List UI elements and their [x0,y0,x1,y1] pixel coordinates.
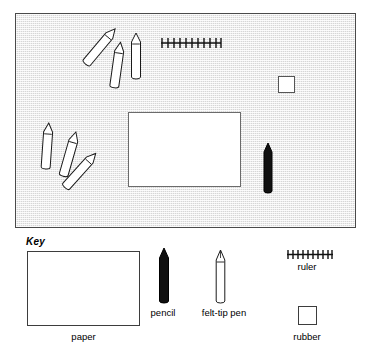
scene-rubber-square [278,76,295,93]
scene-pencil-black [261,142,275,198]
key-legend: Key paper pencil felt-tip pen [0,228,369,359]
key-label-pencil: pencil [137,307,189,318]
key-rubber-square-icon [298,306,317,325]
key-label-rubber: rubber [276,331,338,342]
key-label-ruler: ruler [276,261,338,272]
key-pencil-icon [156,247,172,308]
key-label-paper: paper [27,331,140,342]
scene-paper-sheet [128,112,241,187]
key-paper-rectangle-icon [27,251,140,326]
desk-scene [15,13,356,228]
key-title: Key [26,236,45,247]
scene-felt-tip-pen-3 [129,32,143,84]
scene-felt-tip-pen-2 [106,40,127,93]
key-label-felt-tip-pen: felt-tip pen [186,307,262,318]
scene-felt-tip-pen-4 [38,122,56,175]
key-ruler-icon [286,248,334,261]
scene-ruler-icon [160,36,222,50]
key-felt-tip-pen-icon [213,249,228,308]
